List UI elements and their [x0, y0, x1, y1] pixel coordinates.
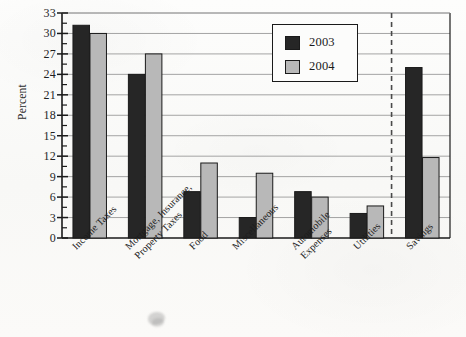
bar-2004-3 [201, 163, 218, 238]
legend-label-2003: 2003 [309, 35, 335, 50]
bar-2003-2 [128, 74, 145, 238]
bar-2004-1 [90, 33, 107, 238]
legend: 20032004 [272, 24, 358, 82]
legend-swatch-2004 [285, 60, 300, 74]
legend-swatch-2003 [285, 36, 300, 50]
bar-2003-1 [73, 25, 90, 238]
legend-entry-2003: 2003 [285, 35, 335, 50]
legend-entry-2004: 2004 [285, 59, 335, 74]
legend-label-2004: 2004 [309, 59, 335, 74]
bar-2003-7 [406, 68, 423, 238]
plot-area [0, 0, 466, 337]
bar-chart: Percent 03691215182124273033 Income Taxe… [0, 0, 466, 337]
